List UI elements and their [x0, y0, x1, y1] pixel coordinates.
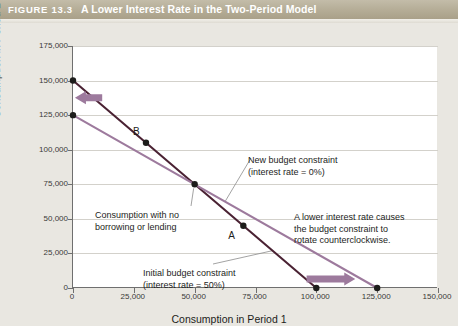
y-axis-tick-label: 150,000	[0, 76, 68, 85]
x-axis-tick	[134, 288, 135, 293]
x-axis-tick-label: 50,000	[164, 292, 224, 301]
y-axis-tick-label: 50,000	[0, 214, 68, 223]
figure-container: FIGURE 13.3 A Lower Interest Rate in the…	[0, 0, 458, 326]
data-points	[70, 77, 381, 291]
data-point	[374, 285, 380, 291]
x-axis-tick	[256, 288, 257, 293]
data-point	[313, 285, 319, 291]
x-axis-tick-label: 0	[42, 292, 102, 301]
figure-title: A Lower Interest Rate in the Two-Period …	[81, 3, 317, 15]
new-budget-constraint-line	[73, 115, 377, 288]
horizontal-intercept-shift-arrow	[307, 273, 356, 286]
leader-noborrow-line	[191, 188, 194, 206]
y-axis-tick-label: 75,000	[0, 179, 68, 188]
x-axis-tick-label: 25,000	[103, 292, 163, 301]
annotation-initial-budget-constraint: Initial budget constraint (interest rate…	[143, 268, 236, 291]
budget-constraint-lines	[73, 81, 377, 288]
x-axis-tick-label: 150,000	[407, 292, 458, 301]
data-point-B	[143, 140, 149, 146]
data-point	[191, 181, 197, 187]
y-axis-tick-label: 175,000	[0, 41, 68, 50]
point-label-A: A	[228, 230, 235, 241]
x-axis-tick-label: 125,000	[346, 292, 406, 301]
figure-number: FIGURE 13.3	[8, 4, 73, 15]
y-axis-title: Consumption in Period 2	[0, 3, 2, 118]
y-axis-tick-label: 0	[0, 283, 68, 292]
annotation-new-budget-constraint: New budget constraint (interest rate = 0…	[248, 155, 338, 178]
data-point-A	[240, 223, 246, 229]
x-axis-tick-label: 100,000	[285, 292, 345, 301]
figure-header-underline	[0, 19, 458, 23]
x-axis-tick	[438, 288, 439, 293]
x-axis-tick	[73, 288, 74, 293]
leader-initial-line	[213, 251, 273, 264]
point-label-B: B	[133, 126, 140, 137]
annotation-no-borrowing-or-lending: Consumption with no borrowing or lending	[95, 210, 179, 233]
rotation-arrows	[75, 91, 355, 285]
data-point	[70, 77, 76, 83]
y-axis-tick-label: 25,000	[0, 248, 68, 257]
x-axis-tick-label: 75,000	[225, 292, 285, 301]
x-axis-title: Consumption in Period 1	[0, 313, 458, 325]
y-axis-tick-label: 100,000	[0, 145, 68, 154]
y-axis-tick-label: 125,000	[0, 110, 68, 119]
data-point	[70, 112, 76, 118]
annotation-rotation-note: A lower interest rate causes the budget …	[294, 212, 405, 247]
